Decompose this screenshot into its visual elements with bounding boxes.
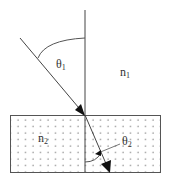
theta1-label: θ1	[56, 57, 66, 72]
theta1-arc	[38, 38, 85, 58]
n1-label: n1	[120, 65, 130, 80]
incident-ray	[20, 38, 84, 114]
refraction-diagram: θ1 n1 n2 θ2	[0, 0, 169, 183]
